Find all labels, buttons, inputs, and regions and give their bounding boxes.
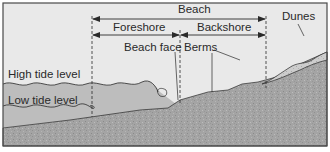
label-high-tide-level: High tide level xyxy=(8,68,80,80)
label-berms: Berms xyxy=(184,41,217,53)
label-backshore: Backshore xyxy=(197,21,251,33)
label-low-tide-level: Low tide level xyxy=(8,94,78,106)
label-dunes: Dunes xyxy=(282,10,315,22)
label-beach: Beach xyxy=(178,3,211,15)
label-beach-face: Beach face xyxy=(124,41,182,53)
label-foreshore: Foreshore xyxy=(113,21,165,33)
beach-profile-diagram: Beach Foreshore Backshore Dunes Beach fa… xyxy=(0,0,330,152)
